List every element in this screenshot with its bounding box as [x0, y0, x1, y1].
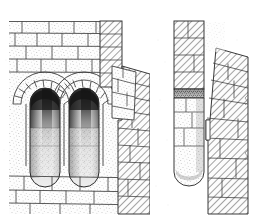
pier-dark-cap-band: [174, 89, 204, 98]
figure-root: [0, 0, 254, 223]
background-stipple-gap: [205, 22, 225, 52]
stepped-ashlar-transition: [112, 66, 136, 120]
hatched-pier: [174, 21, 204, 89]
niche-left: [30, 88, 62, 187]
niche-right: [69, 88, 101, 187]
architectural-section-drawing: [0, 0, 254, 223]
pier-lower-shaft: [174, 98, 204, 186]
